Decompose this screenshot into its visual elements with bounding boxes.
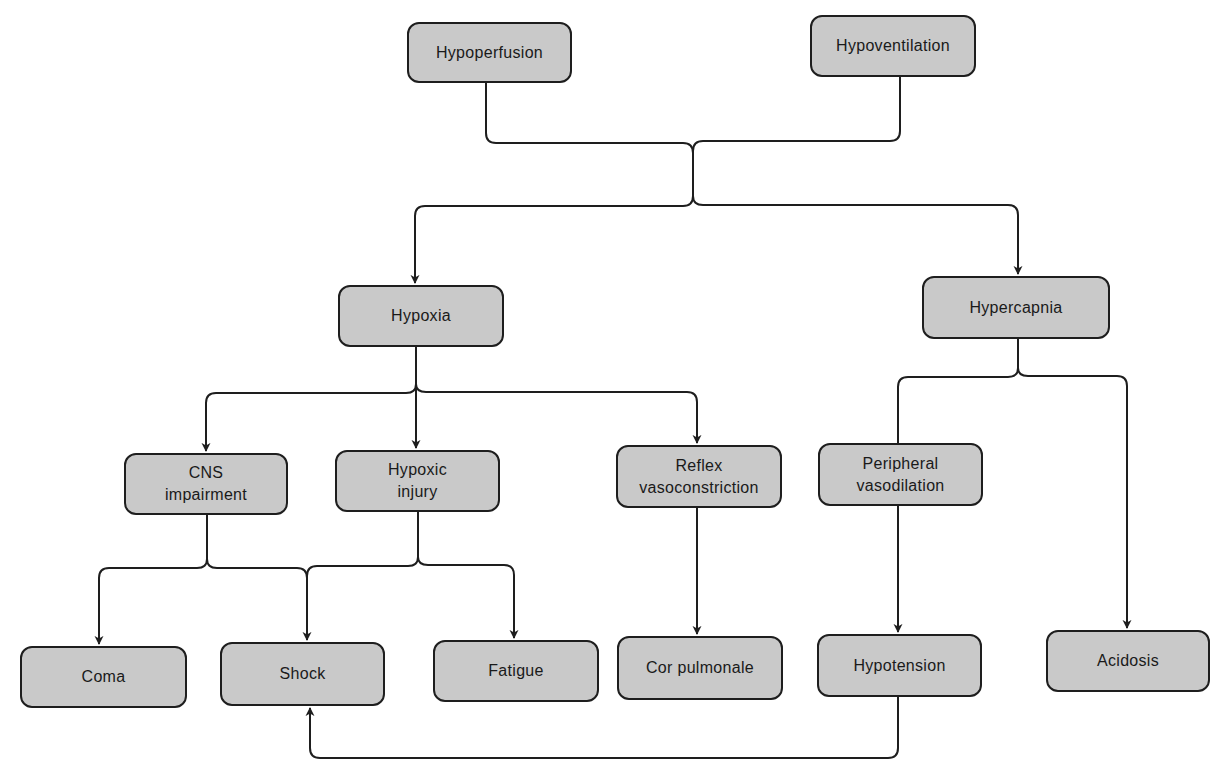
node-peripheral-vasodilation: Peripheral vasodilation: [818, 443, 983, 506]
edge-to-reflex: [416, 384, 697, 443]
node-hypoxic-injury: Hypoxic injury: [335, 450, 500, 512]
node-hypoperfusion: Hypoperfusion: [407, 22, 572, 83]
edge-hypoventilation-merge: [693, 77, 900, 151]
node-label: Coma: [82, 666, 126, 688]
node-label: Peripheral vasodilation: [856, 453, 944, 497]
edge-to-peripheral: [898, 368, 1018, 443]
node-label: Hypoventilation: [836, 35, 950, 57]
node-label: Hypercapnia: [969, 297, 1062, 319]
edge-to-coma: [99, 559, 207, 644]
edge-cns-to-shock: [207, 559, 307, 578]
edge-to-fatigue: [418, 557, 514, 638]
node-label: Hypoxia: [391, 305, 451, 327]
node-hypotension: Hypotension: [817, 634, 982, 697]
edge-hypoxic-to-shock: [307, 557, 418, 640]
node-shock: Shock: [220, 642, 385, 706]
node-hypoventilation: Hypoventilation: [810, 15, 976, 77]
node-coma: Coma: [20, 646, 187, 708]
node-label: Cor pulmonale: [646, 657, 754, 679]
node-label: Hypoxic injury: [388, 459, 447, 503]
node-label: Hypoperfusion: [436, 42, 543, 64]
node-label: Acidosis: [1097, 650, 1159, 672]
node-hypoxia: Hypoxia: [338, 285, 504, 347]
edge-to-acidosis: [1018, 368, 1127, 628]
node-reflex-vasoconstriction: Reflex vasoconstriction: [616, 445, 782, 508]
edge-to-hypoxia: [415, 196, 693, 283]
node-label: Reflex vasoconstriction: [639, 455, 759, 499]
edge-hypotension-to-shock: [310, 697, 898, 758]
edge-to-cns: [206, 384, 416, 451]
flow-diagram: Hypoperfusion Hypoventilation Hypoxia Hy…: [0, 0, 1228, 780]
node-hypercapnia: Hypercapnia: [922, 276, 1110, 339]
edge-hypoperfusion-merge: [486, 83, 693, 153]
node-label: Shock: [280, 663, 326, 685]
node-acidosis: Acidosis: [1046, 630, 1210, 692]
node-label: CNS impairment: [165, 462, 247, 506]
edge-to-hypercapnia: [693, 196, 1018, 274]
node-label: Fatigue: [488, 660, 543, 682]
node-cor-pulmonale: Cor pulmonale: [617, 636, 783, 700]
node-fatigue: Fatigue: [433, 640, 599, 702]
node-cns-impairment: CNS impairment: [124, 453, 288, 515]
node-label: Hypotension: [853, 655, 945, 677]
